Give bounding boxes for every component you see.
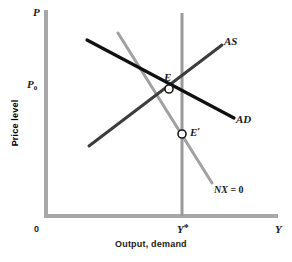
x-tick-star: *	[184, 222, 189, 233]
point-e-prime-marker	[178, 130, 186, 138]
curve-label-nx0-base: NX	[214, 184, 228, 195]
point-label-prime-mark: ′	[197, 125, 200, 137]
x-axis-symbol: Y	[275, 224, 282, 235]
curve-nx0	[118, 33, 212, 183]
point-label-e: E	[164, 72, 171, 83]
y-tick-label-p0: P0	[27, 79, 37, 90]
point-e-marker	[165, 85, 173, 93]
x-tick-base: Y	[177, 223, 184, 235]
curve-label-ad: AD	[236, 114, 251, 125]
curve-as	[89, 45, 222, 146]
y-axis-symbol: P	[33, 7, 40, 18]
point-label-e-prime: E′	[190, 127, 200, 138]
x-axis-title: Output, demand	[115, 240, 187, 249]
figure-canvas: P P0 Price level 0 Y* Y Output, demand A…	[0, 0, 292, 262]
y-axis-title-wrap: Price level	[8, 78, 22, 168]
curve-label-nx0: NX = 0	[214, 185, 244, 195]
curve-label-nx0-eq: = 0	[228, 184, 244, 195]
curve-label-as: AS	[224, 36, 237, 47]
x-tick-label-ystar: Y*	[177, 224, 189, 235]
plot-area	[0, 0, 292, 262]
y-tick-base: P	[27, 78, 34, 90]
y-tick-subscript: 0	[34, 84, 38, 92]
origin-label: 0	[34, 225, 39, 234]
y-axis-title: Price level	[10, 100, 20, 147]
